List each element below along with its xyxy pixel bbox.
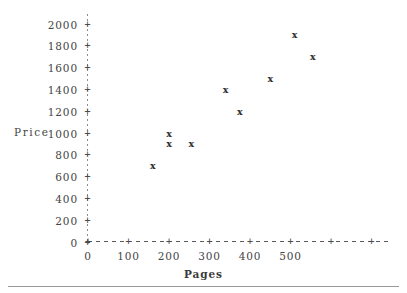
y-tick-label: 1200 [0,106,78,117]
data-point-marker: x [308,52,317,61]
y-tick-mark: + [83,129,92,138]
y-tick-label: 2000 [0,19,78,30]
scatter-plot-figure: +0+200+400+600+800+1000+1200+1400+1600+1… [0,0,407,293]
x-tick-label: 0 [68,250,108,262]
y-tick-label-text: 600 [55,171,78,183]
x-tick-mark: + [286,237,295,246]
x-tick-label: 400 [230,250,270,262]
y-tick-label: 600 [0,171,78,182]
y-tick-mark: + [83,172,92,181]
y-tick-label: 1600 [0,62,78,73]
y-tick-label: 1800 [0,40,78,51]
y-tick-label: 800 [0,149,78,160]
data-point-marker: x [290,30,299,39]
x-axis-line [88,241,388,242]
data-point-marker: x [221,85,230,94]
y-tick-mark: + [83,194,92,203]
footer-divider [8,286,399,287]
x-tick-label: 100 [109,250,149,262]
x-tick-mark: + [367,237,376,246]
y-tick-label-text: 1400 [48,84,78,96]
x-tick-label: 200 [149,250,189,262]
y-tick-label-text: 1600 [48,62,78,74]
y-tick-label: 1400 [0,84,78,95]
y-tick-label-text: 1800 [48,40,78,52]
y-tick-mark: + [83,85,92,94]
y-tick-label-text: 0 [70,237,78,249]
data-point-marker: x [165,129,174,138]
y-tick-label: 0 [0,237,78,248]
x-tick-label: 300 [190,250,230,262]
data-point-marker: x [266,74,275,83]
data-point-marker: x [187,139,196,148]
x-tick-mark: + [327,237,336,246]
y-tick-label-text: 800 [55,149,78,161]
y-tick-label: 200 [0,215,78,226]
y-tick-label-text: 1000 [48,128,78,140]
y-tick-label-text: 200 [55,215,78,227]
data-point-marker: x [148,161,157,170]
x-tick-label: 500 [271,250,311,262]
x-tick-mark: + [84,237,93,246]
x-tick-mark: + [124,237,133,246]
x-tick-mark: + [246,237,255,246]
data-point-marker: x [165,139,174,148]
y-tick-label-text: 1200 [48,106,78,118]
y-tick-mark: + [83,20,92,29]
y-tick-label: 400 [0,193,78,204]
y-tick-mark: + [83,107,92,116]
y-tick-label-text: 400 [55,193,78,205]
y-tick-mark: + [83,63,92,72]
data-point-marker: x [235,107,244,116]
x-tick-mark: + [205,237,214,246]
y-tick-mark: + [83,150,92,159]
x-tick-mark: + [165,237,174,246]
y-axis-title: Price [14,126,50,138]
y-tick-label-text: 2000 [48,19,78,31]
x-axis-title: Pages [0,268,407,280]
y-tick-mark: + [83,216,92,225]
y-tick-mark: + [83,41,92,50]
